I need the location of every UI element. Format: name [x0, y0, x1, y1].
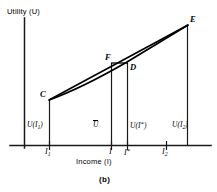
tick-label-i2: I2	[162, 148, 168, 157]
point-label-c: C	[40, 90, 46, 99]
utility-of-income-figure: Utility (U) Income (I) C F D E U(I1) U U…	[0, 0, 217, 192]
tick-label-i2-subscript: 2	[165, 151, 168, 157]
point-label-d: D	[130, 63, 136, 72]
value-label-u-i-star: U(I*)	[130, 121, 146, 130]
value-label-u-bar-text: U	[93, 121, 98, 129]
value-label-u-i1-close: )	[40, 120, 43, 129]
point-label-e: E	[190, 15, 196, 24]
tick-label-i-star: I*	[124, 148, 130, 157]
value-label-u-i-star-close: )	[144, 121, 147, 130]
tick-label-i1-subscript: 1	[48, 151, 51, 157]
tick-label-i1: I1	[45, 148, 51, 157]
value-label-u-i2: U(I2)	[172, 121, 188, 130]
value-label-u-i1-text: U(I	[27, 120, 37, 129]
point-label-f: F	[105, 53, 111, 62]
tick-label-i-bar: I	[109, 148, 112, 156]
value-label-u-bar: U	[93, 121, 98, 129]
value-label-u-i1: U(I1)	[27, 121, 43, 130]
drop-lines	[50, 25, 188, 145]
x-axis-title: Income (I)	[76, 158, 112, 166]
figure-caption: (b)	[99, 176, 110, 184]
value-label-u-i-star-text: U(I	[130, 121, 140, 130]
value-label-u-i2-text: U(I	[172, 120, 182, 129]
value-label-u-i2-close: )	[185, 120, 188, 129]
y-axis-title: Utility (U)	[7, 8, 40, 16]
tick-label-i-star-asterisk: *	[127, 147, 131, 155]
tick-label-i-bar-text: I	[109, 147, 112, 156]
